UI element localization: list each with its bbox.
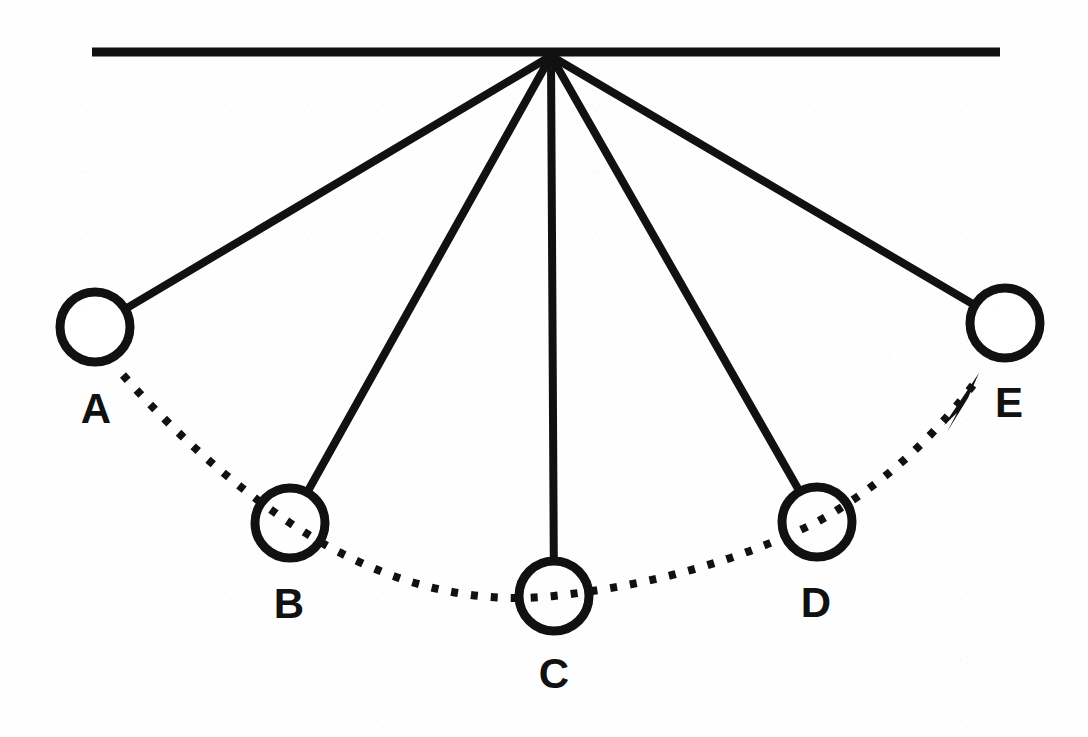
bob-A	[60, 292, 130, 362]
string-to-D	[551, 56, 798, 489]
bob-label-B: B	[274, 583, 304, 625]
bob-label-C: C	[539, 653, 569, 695]
bob-E	[970, 288, 1040, 358]
swing-direction-arrowhead	[944, 373, 979, 432]
diagram-canvas: A B C D E	[0, 0, 1088, 737]
bob-label-D: D	[801, 582, 831, 624]
bob-label-A: A	[81, 388, 111, 430]
pendulum-diagram	[0, 0, 1088, 737]
bob-D	[782, 487, 852, 557]
string-to-E	[551, 56, 972, 304]
pendulum-strings	[128, 56, 973, 558]
bob-label-E: E	[995, 382, 1023, 424]
string-to-C	[551, 56, 554, 558]
string-to-B	[308, 56, 551, 490]
string-to-A	[128, 56, 551, 308]
